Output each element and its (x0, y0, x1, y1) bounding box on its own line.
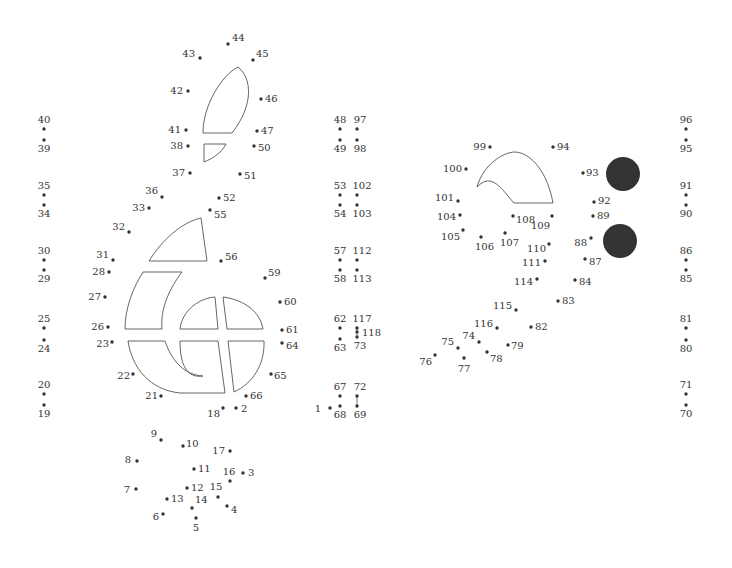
dot-17[interactable]: 17 (212, 445, 231, 456)
dot-marker[interactable] (456, 346, 459, 349)
dot-marker[interactable] (462, 356, 465, 359)
dot-48[interactable]: 48 (334, 114, 347, 131)
dot-98[interactable]: 98 (354, 138, 367, 154)
dot-97[interactable]: 97 (354, 114, 367, 131)
dot-18[interactable]: 18 (207, 406, 224, 419)
dot-marker[interactable] (42, 193, 45, 196)
dot-marker[interactable] (485, 350, 488, 353)
dot-marker[interactable] (190, 506, 193, 509)
dot-84[interactable]: 84 (573, 276, 591, 287)
dot-22[interactable]: 22 (117, 370, 134, 381)
dot-marker[interactable] (217, 196, 220, 199)
dot-marker[interactable] (503, 231, 506, 234)
dot-marker[interactable] (355, 138, 358, 141)
dot-marker[interactable] (355, 268, 358, 271)
dot-57[interactable]: 57 (334, 245, 347, 262)
dot-99[interactable]: 99 (473, 141, 491, 152)
dot-marker[interactable] (514, 308, 517, 311)
dot-70[interactable]: 70 (680, 403, 693, 419)
dot-64[interactable]: 64 (280, 340, 298, 351)
dot-marker[interactable] (42, 258, 45, 261)
dot-marker[interactable] (550, 214, 553, 217)
dot-96[interactable]: 96 (680, 114, 693, 131)
dot-marker[interactable] (42, 203, 45, 206)
dot-61[interactable]: 61 (280, 324, 298, 335)
dot-marker[interactable] (278, 300, 281, 303)
dot-93[interactable]: 93 (581, 167, 598, 178)
dot-marker[interactable] (131, 372, 134, 375)
dot-marker[interactable] (165, 497, 168, 500)
dot-marker[interactable] (338, 203, 341, 206)
dot-85[interactable]: 85 (680, 268, 693, 284)
dot-65[interactable]: 65 (269, 370, 286, 381)
dot-marker[interactable] (251, 58, 254, 61)
dot-86[interactable]: 86 (680, 245, 693, 262)
dot-marker[interactable] (134, 487, 137, 490)
dot-56[interactable]: 56 (219, 251, 237, 263)
dot-marker[interactable] (228, 479, 231, 482)
dot-marker[interactable] (495, 326, 498, 329)
dot-marker[interactable] (185, 486, 188, 489)
dot-13[interactable]: 13 (165, 493, 183, 504)
dot-marker[interactable] (684, 326, 687, 329)
dot-marker[interactable] (216, 495, 219, 498)
dot-62[interactable]: 62 (334, 313, 347, 330)
dot-marker[interactable] (241, 471, 244, 474)
dot-marker[interactable] (338, 258, 341, 261)
dot-marker[interactable] (535, 277, 538, 280)
dot-marker[interactable] (188, 171, 191, 174)
dot-marker[interactable] (684, 258, 687, 261)
dot-118[interactable]: 118 (355, 327, 381, 338)
dot-marker[interactable] (433, 353, 436, 356)
dot-114[interactable]: 114 (514, 276, 539, 287)
dot-6[interactable]: 6 (153, 511, 165, 522)
dot-100[interactable]: 100 (443, 163, 468, 174)
dot-marker[interactable] (684, 203, 687, 206)
dot-37[interactable]: 37 (172, 167, 191, 178)
dot-53[interactable]: 53 (334, 180, 347, 197)
dot-20[interactable]: 20 (38, 379, 51, 396)
dot-marker[interactable] (221, 406, 224, 409)
dot-39[interactable]: 39 (38, 138, 51, 154)
dot-marker[interactable] (338, 394, 341, 397)
dot-47[interactable]: 47 (255, 125, 273, 136)
dot-106[interactable]: 106 (475, 235, 494, 252)
dot-112[interactable]: 112 (352, 245, 371, 262)
dot-30[interactable]: 30 (38, 245, 51, 262)
dot-102[interactable]: 102 (352, 180, 371, 197)
dot-marker[interactable] (589, 236, 592, 239)
dot-4[interactable]: 4 (225, 504, 237, 515)
dot-24[interactable]: 24 (38, 338, 51, 354)
dot-marker[interactable] (103, 295, 106, 298)
dot-marker[interactable] (269, 372, 272, 375)
dot-marker[interactable] (461, 228, 464, 231)
dot-marker[interactable] (479, 235, 482, 238)
dot-marker[interactable] (186, 144, 189, 147)
dot-marker[interactable] (181, 444, 184, 447)
dot-110[interactable]: 110 (527, 242, 551, 254)
dot-28[interactable]: 28 (92, 266, 110, 277)
dot-7[interactable]: 7 (124, 484, 138, 495)
dot-11[interactable]: 11 (192, 463, 210, 474)
dot-marker[interactable] (42, 392, 45, 395)
dot-90[interactable]: 90 (680, 203, 693, 219)
dot-5[interactable]: 5 (193, 516, 199, 533)
dot-marker[interactable] (280, 328, 283, 331)
dot-marker[interactable] (581, 171, 584, 174)
dot-marker[interactable] (355, 258, 358, 261)
dot-92[interactable]: 92 (592, 195, 610, 206)
dot-69[interactable]: 69 (354, 404, 367, 420)
dot-marker[interactable] (464, 167, 467, 170)
dot-marker[interactable] (338, 337, 341, 340)
dot-marker[interactable] (573, 278, 576, 281)
dot-12[interactable]: 12 (185, 482, 203, 493)
dot-44[interactable]: 44 (226, 32, 244, 46)
dot-marker[interactable] (684, 193, 687, 196)
dot-38[interactable]: 38 (170, 140, 189, 151)
dot-23[interactable]: 23 (96, 338, 113, 349)
dot-marker[interactable] (684, 268, 687, 271)
dot-71[interactable]: 71 (680, 379, 693, 396)
dot-marker[interactable] (42, 138, 45, 141)
dot-marker[interactable] (684, 127, 687, 130)
dot-marker[interactable] (238, 172, 241, 175)
